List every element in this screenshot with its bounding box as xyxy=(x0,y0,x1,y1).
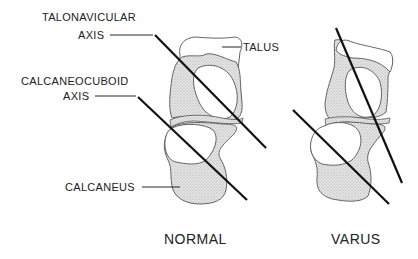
talonavicular-axis-label-line1: TALONAVICULAR xyxy=(42,11,136,23)
foot-axes-diagram xyxy=(0,0,418,259)
talus-label: TALUS xyxy=(243,41,279,53)
normal-caption: NORMAL xyxy=(164,231,227,247)
calcaneocuboid-axis-label-line2: AXIS xyxy=(63,90,89,102)
varus-panel xyxy=(293,28,402,204)
calcaneocuboid-axis-label-line1: CALCANEOCUBOID xyxy=(21,75,129,87)
calcaneus-label: CALCANEUS xyxy=(65,181,135,193)
varus-caption: VARUS xyxy=(331,231,381,247)
varus-cuboid-bone xyxy=(310,123,360,166)
normal-panel xyxy=(95,35,266,204)
talonavicular-axis-label-line2: AXIS xyxy=(78,29,104,41)
